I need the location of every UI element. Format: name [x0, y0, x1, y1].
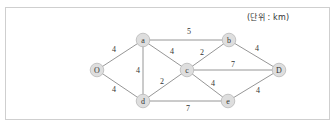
node-label: c	[185, 66, 189, 75]
edge-e-D	[228, 70, 279, 101]
edge-weight-label: 2	[200, 48, 204, 57]
edge-c-e	[187, 70, 228, 101]
edge-weight-label: 4	[211, 79, 215, 88]
node-label: e	[226, 97, 230, 106]
node-label: d	[141, 97, 145, 106]
node-label: D	[276, 66, 282, 75]
edge-c-b	[187, 40, 229, 70]
edge-weight-label: 5	[187, 27, 191, 36]
edge-weight-label: 4	[255, 44, 259, 53]
edge-weight-label: 4	[256, 86, 260, 95]
node-b: b	[222, 33, 236, 47]
edge-weight-label: 4	[112, 45, 116, 54]
edge-weight-label: 7	[186, 104, 190, 113]
node-label: b	[227, 36, 231, 45]
edge-weight-label: 7	[231, 60, 235, 69]
edge-weight-label: 4	[170, 47, 174, 56]
edge-b-D	[229, 40, 279, 70]
node-e: e	[221, 94, 235, 108]
network-graph: 444542727444OadcbDe	[0, 0, 334, 126]
edge-weight-label: 4	[136, 66, 140, 75]
edge-d-c	[143, 70, 187, 101]
edge-weight-label: 2	[160, 77, 164, 86]
node-a: a	[136, 33, 150, 47]
node-d: d	[136, 94, 150, 108]
node-O: O	[90, 63, 104, 77]
node-label: O	[94, 66, 100, 75]
node-label: a	[141, 36, 145, 45]
edge-weight-label: 4	[112, 85, 116, 94]
node-D: D	[272, 63, 286, 77]
node-c: c	[180, 63, 194, 77]
edge-a-c	[143, 40, 187, 70]
